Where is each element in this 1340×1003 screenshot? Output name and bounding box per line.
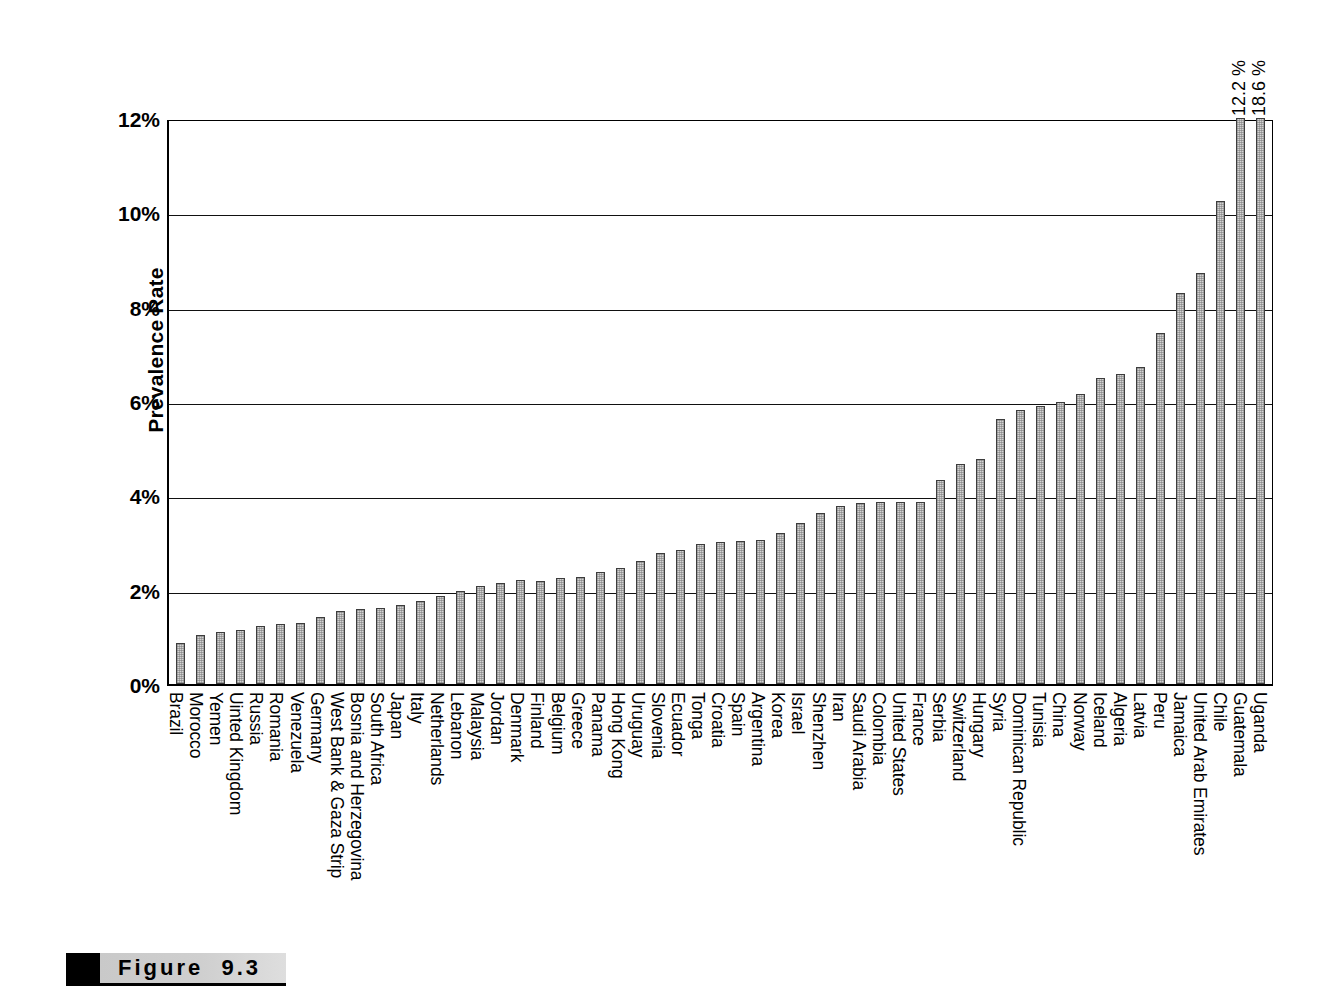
bar[interactable] [596, 572, 605, 684]
bar[interactable] [476, 586, 485, 684]
bar[interactable] [736, 541, 745, 684]
bar-series [169, 121, 1272, 684]
bar[interactable] [436, 596, 445, 684]
x-axis-tick-label: Ecuador [668, 692, 686, 756]
annotation-slot [770, 0, 790, 120]
bar[interactable] [216, 632, 225, 684]
annotation-slot [851, 0, 871, 120]
bar-slot [530, 121, 550, 684]
bar-slot [390, 121, 410, 684]
bar[interactable] [456, 591, 465, 684]
bar-slot [1171, 121, 1191, 684]
caption-underline [66, 983, 286, 986]
bar[interactable] [1256, 118, 1265, 684]
bar-slot [871, 121, 891, 684]
bar-slot [1051, 121, 1071, 684]
x-axis-tick-label: Italy [407, 692, 425, 724]
x-axis-tick-label: Korea [769, 692, 787, 738]
bar[interactable] [1056, 402, 1065, 684]
annotation-slot [590, 0, 610, 120]
bar[interactable] [756, 540, 765, 684]
bar[interactable] [516, 580, 525, 684]
annotation-slot [248, 0, 268, 120]
bar[interactable] [616, 568, 625, 685]
bar-slot [790, 121, 810, 684]
x-axis-tick-label: Jamaica [1170, 692, 1188, 756]
x-label-slot: Slovenia [650, 690, 670, 940]
bar[interactable] [876, 502, 885, 684]
annotation-slot [570, 0, 590, 120]
bar-value-label: 18.6 % [1250, 60, 1268, 116]
bar[interactable] [196, 635, 205, 684]
bar[interactable] [936, 480, 945, 684]
bar-slot [770, 121, 790, 684]
bar[interactable] [816, 513, 825, 684]
bar[interactable] [496, 583, 505, 684]
x-axis-tick-label: Denmark [508, 692, 526, 762]
bar[interactable] [316, 617, 325, 684]
bar[interactable] [576, 577, 585, 684]
bar[interactable] [1176, 293, 1185, 684]
annotation-slot [891, 0, 911, 120]
bar[interactable] [1196, 273, 1205, 684]
bar[interactable] [656, 553, 665, 684]
bar[interactable] [956, 464, 965, 684]
bar[interactable] [1156, 333, 1165, 684]
bar[interactable] [976, 459, 985, 684]
x-axis-tick-label: Dominican Republic [1010, 692, 1028, 846]
bar[interactable] [1216, 201, 1225, 684]
bar-slot [851, 121, 871, 684]
bar-slot [330, 121, 350, 684]
bar[interactable] [416, 601, 425, 684]
bar[interactable] [256, 626, 265, 684]
x-label-slot: Greece [570, 690, 590, 940]
bar[interactable] [356, 609, 365, 684]
x-label-slot: Germany [309, 690, 329, 940]
bar-slot [190, 121, 210, 684]
bar-slot [170, 121, 190, 684]
bar[interactable] [916, 502, 925, 684]
bar[interactable] [996, 419, 1005, 684]
annotation-slot [610, 0, 630, 120]
bar[interactable] [536, 581, 545, 684]
x-label-slot: Japan [389, 690, 409, 940]
x-label-slot: United States [891, 690, 911, 940]
bar-slot [570, 121, 590, 684]
bar[interactable] [716, 542, 725, 684]
bar-slot [630, 121, 650, 684]
bar[interactable] [376, 608, 385, 684]
bar[interactable] [636, 561, 645, 684]
bar-slot [470, 121, 490, 684]
bar[interactable] [296, 623, 305, 684]
bar[interactable] [1036, 406, 1045, 684]
bar[interactable] [1236, 118, 1245, 684]
bar[interactable] [896, 502, 905, 684]
bar[interactable] [556, 578, 565, 684]
annotation-slot [670, 0, 690, 120]
bar[interactable] [1096, 378, 1105, 684]
bar[interactable] [236, 630, 245, 684]
bar[interactable] [1116, 374, 1125, 684]
bar[interactable] [176, 643, 185, 685]
annotation-slot [329, 0, 349, 120]
bar[interactable] [796, 523, 805, 684]
bar[interactable] [776, 533, 785, 684]
bar[interactable] [676, 550, 685, 684]
bar[interactable] [1136, 367, 1145, 684]
x-label-slot: Uganda [1252, 690, 1272, 940]
bar-slot [690, 121, 710, 684]
bar[interactable] [276, 624, 285, 684]
bar[interactable] [1076, 394, 1085, 684]
caption-number: 9.3 [221, 955, 261, 980]
bar[interactable] [836, 506, 845, 684]
x-axis-tick-label: Spain [729, 692, 747, 736]
caption-marker-square [66, 953, 100, 983]
bar[interactable] [396, 605, 405, 684]
bar[interactable] [1016, 410, 1025, 684]
bar[interactable] [856, 503, 865, 684]
y-axis-tick-label: 12% [88, 109, 160, 130]
bar[interactable] [696, 544, 705, 684]
annotation-slot [690, 0, 710, 120]
bar[interactable] [336, 611, 345, 684]
bar-slot [1251, 121, 1271, 684]
